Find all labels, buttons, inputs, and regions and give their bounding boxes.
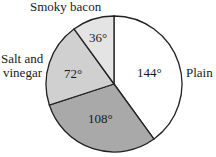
value-label-108: 108°	[88, 111, 113, 126]
label-plain: Plain	[186, 66, 213, 80]
label-salt-line2: vinegar	[3, 66, 42, 80]
value-label-salt: 72°	[64, 66, 82, 81]
value-label-plain: 144°	[137, 65, 162, 80]
value-label-smoky: 36°	[89, 30, 107, 45]
label-salt-line1: Salt and	[1, 52, 43, 66]
label-smoky-bacon: Smoky bacon	[30, 0, 101, 14]
